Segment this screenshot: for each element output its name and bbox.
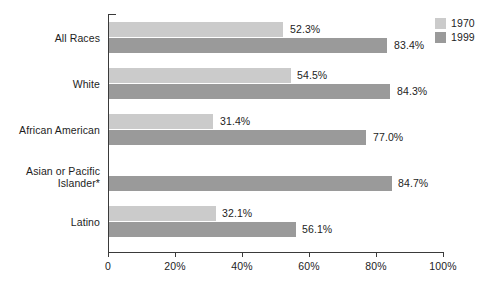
chart-legend: 1970 1999	[435, 17, 490, 45]
x-tick-label-40: 40%	[231, 260, 252, 272]
bar-value-1970-all-races: 52.3%	[290, 22, 320, 37]
category-label-all-races: All Races	[55, 32, 100, 44]
category-label-white: White	[73, 78, 100, 90]
legend-label-1999: 1999	[451, 31, 475, 43]
x-tick-0	[108, 252, 109, 257]
bar-chart: All Races White African American Asian o…	[0, 0, 492, 283]
bar-1970-latino	[108, 206, 216, 221]
bar-1999-asian-or-pacific-islander	[108, 176, 392, 191]
legend-swatch-1970-icon	[435, 18, 446, 29]
y-axis-line	[108, 14, 109, 253]
bar-value-1999-latino: 56.1%	[302, 222, 332, 237]
category-label-latino: Latino	[71, 216, 100, 228]
legend-label-1970: 1970	[451, 17, 475, 29]
bar-value-1999-african-american: 77.0%	[373, 130, 403, 145]
x-tick-40	[242, 252, 243, 257]
x-tick-label-80: 80%	[365, 260, 386, 272]
bar-value-1999-asian-or-pacific-islander: 84.7%	[398, 176, 428, 191]
bar-1999-all-races	[108, 38, 387, 53]
legend-item-1999: 1999	[435, 31, 490, 43]
plot-area: 52.3% 83.4% 54.5% 84.3% 31.4% 77.0% 84.7…	[108, 14, 443, 252]
bar-1999-white	[108, 84, 390, 99]
legend-item-1970: 1970	[435, 17, 490, 29]
x-tick-label-100: 100%	[429, 260, 456, 272]
legend-swatch-1999-icon	[435, 32, 446, 43]
bar-value-1970-latino: 32.1%	[222, 206, 252, 221]
x-tick-label-20: 20%	[164, 260, 185, 272]
bar-value-1999-all-races: 83.4%	[394, 38, 424, 53]
bar-1970-all-races	[108, 22, 283, 37]
bar-1999-african-american	[108, 130, 366, 145]
x-tick-label-0: 0	[105, 260, 111, 272]
x-axis-line	[108, 252, 444, 253]
x-tick-20	[175, 252, 176, 257]
x-tick-80	[376, 252, 377, 257]
bar-1970-white	[108, 68, 291, 83]
bar-1970-african-american	[108, 114, 213, 129]
bar-value-1999-white: 84.3%	[397, 84, 427, 99]
bar-1999-latino	[108, 222, 296, 237]
category-label-asian-or-pacific-islander: Asian or Pacific Islander*	[26, 165, 100, 189]
category-label-african-american: African American	[19, 124, 100, 136]
y-axis-top-cap	[108, 14, 116, 15]
x-tick-100	[443, 252, 444, 257]
bar-value-1970-african-american: 31.4%	[220, 114, 250, 129]
x-tick-label-60: 60%	[298, 260, 319, 272]
x-tick-60	[309, 252, 310, 257]
bar-value-1970-white: 54.5%	[297, 68, 327, 83]
